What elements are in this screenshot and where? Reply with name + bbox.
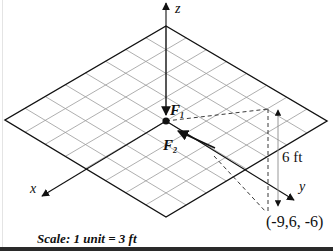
force-f2-arrow	[178, 131, 215, 148]
dimension-label: 6 ft	[282, 150, 302, 165]
grid-line	[25, 108, 186, 205]
vector-diagram: z x y F1 F2 6 ft (-9,6, -6) Scale: 1 uni…	[0, 0, 333, 251]
x-axis	[42, 121, 166, 196]
origin-point	[162, 117, 169, 124]
scale-label: Scale: 1 unit = 3 ft	[37, 232, 137, 245]
y-axis	[166, 121, 294, 200]
z-axis-label: z	[175, 2, 180, 16]
point-coordinate-label: (-9,6, -6)	[266, 214, 323, 230]
x-axis-label: x	[30, 182, 36, 196]
force-f2-label: F2	[163, 138, 177, 155]
force-f1-label: F1	[170, 103, 184, 120]
y-axis-label: y	[299, 180, 305, 194]
